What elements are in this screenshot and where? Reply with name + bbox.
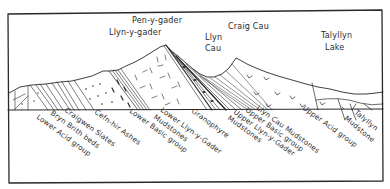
label-llyn-y-gader: Llyn-y-gader <box>109 28 162 37</box>
label-llyn-cau-line1: Llyn <box>205 33 222 42</box>
geological-cross-section: Pen-y-gader Llyn-y-gader Craig Cau Llyn … <box>0 0 390 189</box>
label-craig-cau: Craig Cau <box>228 22 269 31</box>
granophyre-layer <box>135 55 180 105</box>
label-llyn-cau-line2: Cau <box>205 44 221 53</box>
lower-basic-group-layer <box>109 71 138 110</box>
lower-mudstones-band <box>112 69 150 110</box>
label-talyllyn-lake-line1: Talyllyn <box>320 31 352 40</box>
label-talyllyn-lake-line2: Lake <box>325 43 344 52</box>
label-pen-y-gader: Pen-y-gader <box>132 16 183 25</box>
